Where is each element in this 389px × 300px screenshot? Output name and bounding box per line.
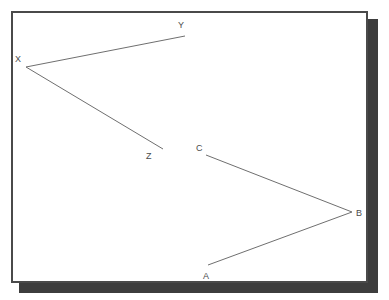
- diagram-card-frame: [11, 11, 368, 283]
- diagram-stage: Y X Z C B A: [0, 0, 389, 300]
- vertex-label-a: A: [203, 272, 209, 281]
- vertex-label-z: Z: [146, 152, 152, 161]
- vertex-label-y: Y: [178, 21, 184, 30]
- vertex-label-c: C: [196, 144, 203, 153]
- vertex-label-b: B: [356, 209, 362, 218]
- vertex-label-x: X: [15, 55, 21, 64]
